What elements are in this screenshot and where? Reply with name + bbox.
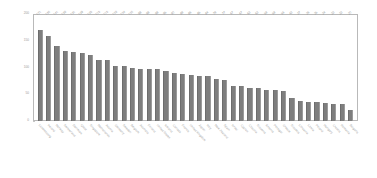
x-axis-slot: Croatia <box>330 123 338 178</box>
y-axis-tick-label: 100 <box>24 66 29 69</box>
bar[interactable] <box>247 88 252 121</box>
bar[interactable] <box>264 90 269 121</box>
bar-slot: 43 <box>288 15 296 121</box>
bar-slot: 171 <box>36 15 44 121</box>
bars-container: 1711601411331311291251151151031041009898… <box>34 15 357 121</box>
bar[interactable] <box>147 69 152 121</box>
x-axis-slot: Italy <box>204 123 212 178</box>
bar[interactable] <box>71 52 76 121</box>
bar[interactable] <box>155 69 160 121</box>
bar-slot: 98 <box>153 15 161 121</box>
x-axis-slot: Belgium <box>128 123 136 178</box>
bar[interactable] <box>214 79 219 121</box>
bar[interactable] <box>340 104 345 121</box>
bar[interactable] <box>314 102 319 121</box>
bar-slot: 33 <box>330 15 338 121</box>
bar[interactable] <box>256 88 261 121</box>
bar[interactable] <box>289 98 294 121</box>
bar-slot: 98 <box>137 15 145 121</box>
y-axis: 200150100500 <box>0 14 33 122</box>
bar[interactable] <box>197 76 202 121</box>
bar[interactable] <box>54 46 59 121</box>
x-axis-slot: Czechia <box>246 123 254 178</box>
y-axis-tick-label: 0 <box>27 119 29 122</box>
y-axis-tick-label: 50 <box>25 93 29 96</box>
x-axis-slot: Austria <box>103 123 111 178</box>
bar-slot: 56 <box>279 15 287 121</box>
bar[interactable] <box>172 73 177 121</box>
bar[interactable] <box>323 103 328 121</box>
bar[interactable] <box>180 74 185 121</box>
bar[interactable] <box>122 66 127 121</box>
bar-slot: 59 <box>271 15 279 121</box>
bar-slot: 89 <box>179 15 187 121</box>
bar[interactable] <box>348 110 353 121</box>
bar[interactable] <box>63 51 68 121</box>
x-axis-slot: Poland <box>313 123 321 178</box>
bar[interactable] <box>281 91 286 121</box>
bar-slot: 37 <box>296 15 304 121</box>
x-axis-slot: Japan <box>195 123 203 178</box>
x-axis-slot: Finland <box>145 123 153 178</box>
x-axis-slot: Norway <box>53 123 61 178</box>
x-axis-slot: Iceland <box>162 123 170 178</box>
bar-slot: 131 <box>70 15 78 121</box>
x-axis-tick-label: Bulgaria <box>348 124 358 134</box>
x-axis-slot: Hungary <box>321 123 329 178</box>
bar[interactable] <box>331 104 336 121</box>
x-axis-slot: Slovakia <box>288 123 296 178</box>
bar-slot: 115 <box>103 15 111 121</box>
bar[interactable] <box>273 90 278 121</box>
x-axis-slot: Germany <box>112 123 120 178</box>
x-axis-slot: Bulgaria <box>346 123 354 178</box>
bar-slot: 125 <box>86 15 94 121</box>
bar-slot: 67 <box>237 15 245 121</box>
bar-slot: 77 <box>221 15 229 121</box>
bar[interactable] <box>222 80 227 121</box>
x-axis-slot: Slovenia <box>254 123 262 178</box>
bar-slot: 129 <box>78 15 86 121</box>
bar-slot: 85 <box>195 15 203 121</box>
bar[interactable] <box>163 71 168 121</box>
x-axis-slot: France <box>179 123 187 178</box>
bar[interactable] <box>189 75 194 121</box>
bar[interactable] <box>80 53 85 121</box>
x-axis-slot: Ireland <box>44 123 52 178</box>
bar[interactable] <box>113 66 118 121</box>
x-axis-slot: Israel <box>229 123 237 178</box>
bar[interactable] <box>88 55 93 121</box>
bar[interactable] <box>138 69 143 121</box>
x-axis: LuxembourgIrelandNorwaySwitzerlandDenmar… <box>34 123 357 178</box>
bar[interactable] <box>306 102 311 121</box>
bar[interactable] <box>205 76 210 121</box>
bar-slot: 103 <box>112 15 120 121</box>
bar-slot: 34 <box>321 15 329 121</box>
x-axis-tick-label: Italy <box>206 124 212 130</box>
x-axis-slot: Singapore <box>86 123 94 178</box>
x-axis-slot: Switzerland <box>61 123 69 178</box>
x-axis-slot: Sweden <box>120 123 128 178</box>
bar-slot: 79 <box>212 15 220 121</box>
x-axis-slot: Greece <box>279 123 287 178</box>
bar[interactable] <box>298 101 303 121</box>
x-axis-slot: Estonia <box>263 123 271 178</box>
bar-chart: 200150100500 171160141133131129125115115… <box>0 0 377 178</box>
bar-slot: 115 <box>95 15 103 121</box>
bar-slot: 141 <box>53 15 61 121</box>
bar-slot: 67 <box>229 15 237 121</box>
bar-slot: 160 <box>44 15 52 121</box>
bar-slot: 33 <box>338 15 346 121</box>
bar-slot: 20 <box>346 15 354 121</box>
x-axis-slot: Spain <box>221 123 229 178</box>
bar[interactable] <box>231 86 236 122</box>
x-axis-slot: United States <box>153 123 161 178</box>
bar[interactable] <box>105 60 110 121</box>
bar-slot: 86 <box>187 15 195 121</box>
bar[interactable] <box>46 36 51 121</box>
x-axis-slot: Lithuania <box>296 123 304 178</box>
x-axis-slot: Luxembourg <box>36 123 44 178</box>
bar[interactable] <box>96 60 101 121</box>
bar[interactable] <box>38 30 43 121</box>
bar[interactable] <box>239 86 244 122</box>
bar[interactable] <box>130 68 135 121</box>
